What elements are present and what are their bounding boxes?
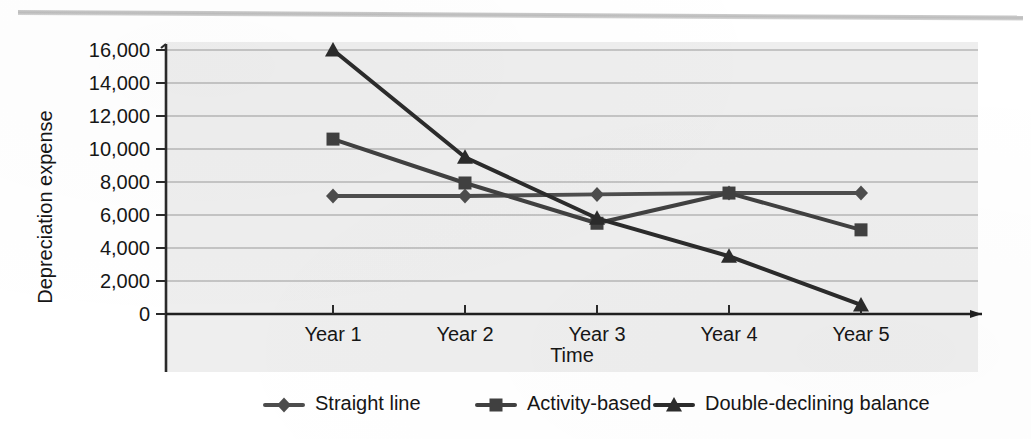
legend-label: Straight line: [315, 392, 421, 414]
y-tick-label: 6,000: [100, 204, 150, 226]
y-tick-label: 10,000: [89, 138, 150, 160]
square-marker-icon: [459, 176, 472, 189]
x-tick-label: Year 2: [436, 323, 493, 345]
square-marker-icon: [855, 223, 868, 236]
x-tick-label: Year 4: [700, 323, 757, 345]
y-tick-label: 2,000: [100, 270, 150, 292]
diamond-marker-icon: [277, 398, 291, 413]
y-tick-label: 0: [139, 303, 150, 325]
y-axis-title: Depreciation expense: [34, 110, 56, 303]
square-marker-icon: [723, 187, 736, 200]
y-tick-label: 4,000: [100, 237, 150, 259]
y-tick-label: 14,000: [89, 72, 150, 94]
legend-label: Double-declining balance: [705, 392, 930, 414]
depreciation-expense-line-chart: 02,0004,0006,0008,00010,00012,00014,0001…: [0, 0, 1031, 439]
square-marker-icon: [327, 133, 340, 146]
legend-item[interactable]: Activity-based: [477, 392, 652, 414]
chart-figure: 02,0004,0006,0008,00010,00012,00014,0001…: [0, 0, 1031, 439]
x-tick-label: Year 5: [832, 323, 889, 345]
x-axis-title: Time: [550, 344, 594, 366]
y-tick-label: 8,000: [100, 171, 150, 193]
y-tick-labels: 02,0004,0006,0008,00010,00012,00014,0001…: [89, 39, 150, 325]
y-tick-label: 12,000: [89, 105, 150, 127]
square-marker-icon: [490, 399, 503, 412]
legend-label: Activity-based: [527, 392, 652, 414]
chart-legend: Straight lineActivity-basedDouble-declin…: [265, 392, 930, 414]
y-tick-label: 16,000: [89, 39, 150, 61]
x-tick-label: Year 3: [568, 323, 625, 345]
x-tick-label: Year 1: [304, 323, 361, 345]
legend-item[interactable]: Double-declining balance: [655, 392, 930, 414]
y-tick-marks: [156, 50, 166, 314]
legend-item[interactable]: Straight line: [265, 392, 421, 414]
